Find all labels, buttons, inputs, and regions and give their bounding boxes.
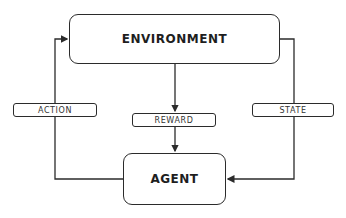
action-edge-label: ACTION <box>13 103 97 117</box>
state-text: STATE <box>279 106 306 115</box>
environment-node: ENVIRONMENT <box>69 14 280 64</box>
environment-label: ENVIRONMENT <box>122 32 227 46</box>
reward-edge-label: REWARD <box>132 113 216 127</box>
reward-text: REWARD <box>155 116 194 125</box>
action-text: ACTION <box>38 106 72 115</box>
agent-node: AGENT <box>123 153 226 205</box>
agent-label: AGENT <box>150 172 198 186</box>
state-edge-label: STATE <box>252 103 334 117</box>
